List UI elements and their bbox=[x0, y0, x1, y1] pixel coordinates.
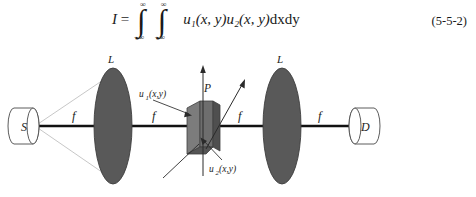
lens-left-label: L bbox=[107, 53, 114, 65]
integral-inner: ∞ ∫ −∞ bbox=[154, 4, 171, 38]
input-beam-line bbox=[163, 144, 199, 178]
equation-lhs: I bbox=[112, 11, 117, 27]
focal-label-4: f bbox=[318, 109, 323, 123]
plate-vertical-arrowhead bbox=[200, 65, 206, 73]
wave1-label-group: u 1 (x,y) bbox=[139, 89, 166, 101]
integral-inner-lower-limit: −∞ bbox=[155, 34, 165, 42]
integrand-u1-args: (x, y) bbox=[196, 11, 227, 27]
equation-differentials: dxdy bbox=[270, 11, 300, 27]
integrand-u1: u bbox=[183, 11, 191, 27]
integral-outer-sign: ∫ bbox=[137, 5, 146, 36]
detector-label: D bbox=[360, 120, 370, 134]
wave1-label: u bbox=[139, 89, 144, 99]
integrand-u2: u bbox=[227, 11, 235, 27]
equation-expression: I = ∞ ∫ −∞ ∞ ∫ −∞ u1(x, y)u2(x, y)dxdy bbox=[112, 4, 300, 38]
lens-left bbox=[94, 68, 132, 184]
equation-number: (5-5-2) bbox=[432, 14, 467, 29]
source-label: S bbox=[21, 120, 27, 134]
lens-right bbox=[263, 68, 301, 184]
integral-outer: ∞ ∫ −∞ bbox=[133, 4, 150, 38]
wave2-label-group: u 2 (x,y) bbox=[209, 164, 236, 176]
wave1-leader bbox=[153, 100, 192, 117]
integral-outer-lower-limit: −∞ bbox=[134, 34, 144, 42]
wave2-label-args: (x,y) bbox=[219, 164, 236, 175]
lens-right-label: L bbox=[276, 53, 283, 65]
plate-back-face bbox=[187, 101, 200, 154]
wave1-label-args: (x,y) bbox=[149, 89, 166, 100]
figure-page: I = ∞ ∫ −∞ ∞ ∫ −∞ u1(x, y)u2(x, y)dxdy (… bbox=[0, 0, 476, 197]
focal-label-1: f bbox=[72, 109, 77, 123]
equation-row: I = ∞ ∫ −∞ ∞ ∫ −∞ u1(x, y)u2(x, y)dxdy (… bbox=[0, 0, 476, 48]
equation-equals: = bbox=[121, 11, 129, 27]
optical-setup-figure: S L P bbox=[0, 48, 476, 197]
focal-label-3: f bbox=[238, 109, 243, 123]
focal-label-2: f bbox=[152, 109, 157, 123]
integral-inner-sign: ∫ bbox=[158, 5, 167, 36]
wave2-label: u bbox=[209, 164, 214, 174]
plate-label: P bbox=[203, 82, 211, 94]
integrand-u2-args: (x, y) bbox=[239, 11, 270, 27]
